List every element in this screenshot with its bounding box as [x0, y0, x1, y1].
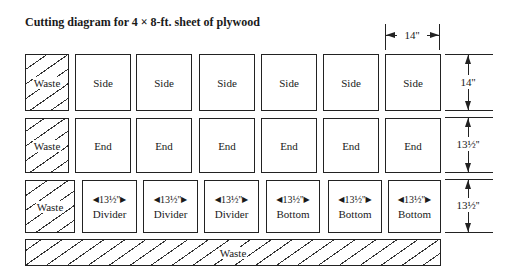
piece-label: Divider — [154, 208, 188, 220]
arrow-up-icon — [465, 55, 471, 64]
waste-piece-row3: Waste — [25, 180, 75, 233]
width-dim: ◀13½''▶ — [93, 194, 126, 205]
divider-piece: ◀13½''▶ Divider — [204, 180, 259, 233]
row1-height-dim: 14'' — [452, 75, 484, 89]
arrow-right-icon: ▶ — [120, 195, 126, 204]
arrow-right-icon: ▶ — [181, 195, 187, 204]
end-piece: End — [385, 118, 441, 173]
arrow-right-icon: ▶ — [366, 195, 372, 204]
top-dim-extension-right — [439, 24, 440, 50]
bottom-piece: ◀13½''▶ Bottom — [266, 180, 320, 233]
waste-label: Waste — [33, 140, 62, 152]
arrow-right-icon — [430, 32, 439, 38]
diagram-title: Cutting diagram for 4 × 8-ft. sheet of p… — [25, 15, 260, 30]
waste-label: Waste — [33, 77, 62, 89]
piece-label: Side — [93, 77, 113, 89]
width-dim: ◀13½''▶ — [398, 194, 431, 205]
dim-label: 13½'' — [160, 194, 181, 205]
end-piece: End — [323, 118, 379, 173]
side-piece: Side — [385, 54, 441, 111]
arrow-right-icon: ▶ — [304, 195, 310, 204]
dim-label: 13½'' — [282, 194, 303, 205]
dim-extension — [445, 232, 493, 233]
piece-label: Bottom — [398, 208, 431, 220]
piece-label: End — [155, 140, 173, 152]
piece-label: Side — [403, 77, 423, 89]
width-dim: ◀13½''▶ — [276, 194, 309, 205]
piece-label: Divider — [93, 208, 127, 220]
end-piece: End — [136, 118, 192, 173]
waste-label: Waste — [219, 247, 248, 259]
side-piece: Side — [199, 54, 255, 111]
arrow-down-icon — [465, 223, 471, 232]
piece-label: End — [404, 140, 422, 152]
arrow-right-icon: ▶ — [425, 195, 431, 204]
piece-label: Bottom — [338, 208, 371, 220]
arrow-down-icon — [465, 101, 471, 110]
waste-piece-row2: Waste — [25, 118, 69, 173]
dim-label: 13½'' — [344, 194, 365, 205]
row3-height-dim: 13½'' — [450, 198, 486, 212]
arrow-right-icon: ▶ — [242, 195, 248, 204]
arrow-down-icon — [465, 163, 471, 172]
dim-label: 13½'' — [99, 194, 120, 205]
row2-height-dim: 13½'' — [450, 137, 486, 151]
width-dim: ◀13½''▶ — [338, 194, 371, 205]
side-piece: Side — [261, 54, 317, 111]
bottom-piece: ◀13½''▶ Bottom — [388, 180, 441, 233]
waste-strip-bottom: Waste — [25, 239, 441, 266]
end-piece: End — [75, 118, 131, 173]
end-piece: End — [199, 118, 255, 173]
dim-label: 13½'' — [404, 194, 425, 205]
width-dim: ◀13½''▶ — [215, 194, 248, 205]
side-piece: Side — [136, 54, 192, 111]
waste-piece-row1: Waste — [25, 54, 69, 111]
divider-piece: ◀13½''▶ Divider — [143, 180, 198, 233]
side-piece: Side — [323, 54, 379, 111]
top-width-dim: 14'' — [397, 28, 427, 42]
arrow-up-icon — [465, 118, 471, 127]
piece-label: End — [94, 140, 112, 152]
piece-label: Side — [341, 77, 361, 89]
arrow-up-icon — [465, 180, 471, 189]
bottom-piece: ◀13½''▶ Bottom — [328, 180, 382, 233]
dim-label: 13½'' — [221, 194, 242, 205]
waste-label: Waste — [36, 201, 65, 213]
arrow-left-icon — [386, 32, 395, 38]
piece-label: End — [280, 140, 298, 152]
side-piece: Side — [75, 54, 131, 111]
piece-label: Divider — [215, 208, 249, 220]
piece-label: End — [218, 140, 236, 152]
piece-label: End — [342, 140, 360, 152]
dim-extension — [445, 110, 493, 111]
end-piece: End — [261, 118, 317, 173]
dim-extension — [445, 172, 493, 173]
piece-label: Bottom — [276, 208, 309, 220]
piece-label: Side — [279, 77, 299, 89]
divider-piece: ◀13½''▶ Divider — [82, 180, 137, 233]
piece-label: Side — [217, 77, 237, 89]
width-dim: ◀13½''▶ — [154, 194, 187, 205]
piece-label: Side — [154, 77, 174, 89]
